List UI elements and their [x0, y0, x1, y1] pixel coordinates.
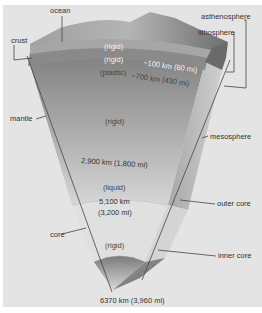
outer-core-depth-km: 5,100 km — [99, 197, 130, 206]
outer-core-label: outer core — [217, 199, 251, 208]
mesosphere-state: (rigid) — [105, 117, 125, 126]
outer-core-depth-mi: (3,200 mi) — [98, 208, 132, 217]
lithosphere-state: (rigid) — [104, 42, 124, 51]
outer-core-state: (liquid) — [103, 183, 126, 192]
asthenosphere-label: asthenosphere — [201, 12, 251, 21]
earth-cross-section: ocean crust mantle core asthenosphere li… — [0, 0, 262, 313]
mesosphere-label: mesosphere — [210, 132, 251, 141]
core-label: core — [50, 230, 65, 239]
inner-core-label: inner core — [218, 251, 251, 260]
inner-core-state: (rigid) — [105, 241, 125, 250]
lithosphere-label: lithosphere — [198, 28, 235, 37]
center-depth: 6370 km (3,960 mi) — [100, 296, 165, 305]
crust-label: crust — [11, 36, 28, 45]
asthenosphere-state: (plastic) — [100, 68, 127, 77]
mantle-leader — [36, 116, 46, 119]
upper-rigid-state: (rigid) — [104, 55, 124, 64]
mantle-label: mantle — [10, 114, 33, 123]
ocean-label: ocean — [50, 6, 70, 15]
